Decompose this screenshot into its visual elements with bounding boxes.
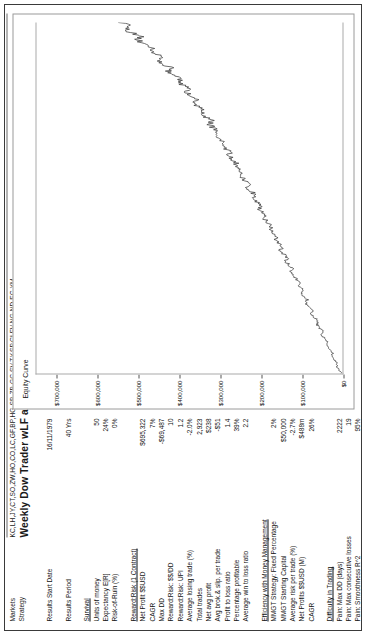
metric-label: MMGT Starting Capital (278, 555, 287, 621)
spacer (53, 416, 62, 621)
metric-label: CAGR (147, 602, 156, 621)
metric-label: Net Profit $$USD (137, 571, 146, 621)
metric-value: 1.2 (175, 416, 184, 427)
section-title-survival: Survival (81, 416, 90, 621)
metric-label: Pain: Smoothness R^2 (352, 555, 361, 621)
metric-value: 24% (100, 416, 109, 431)
section-label: Reward:Risk (1 Contract) (128, 548, 137, 621)
metric-label: Average risk per trade (%) (287, 545, 296, 621)
y-tick-label: $400,000 (175, 380, 182, 405)
section-title-reward-risk: Reward:Risk (1 Contract) (128, 416, 137, 621)
metric-row: Total trades 2,923 (194, 416, 203, 621)
metric-label: MMGT Strategy: Fixed Percentage (268, 521, 277, 621)
metric-value: $50,000 (278, 416, 287, 442)
y-tick-label: $0 (340, 380, 347, 387)
y-axis-ticks: $700,000$600,000$500,000$400,000$300,000… (35, 374, 343, 408)
report-page: Markets KC,LH,JY,CT,SO,ZW,HO,CO,LC,GF,BP… (0, 0, 366, 635)
metric-value: 1.4 (222, 416, 231, 427)
metric-row: Pain: Smoothness R^2 95% (352, 416, 361, 621)
metric-label: Reward:Risk: UPI (175, 570, 184, 621)
metric-row: Percentage profitable 39% (231, 416, 240, 621)
metric-row: MMGT Starting Capital $50,000 (278, 416, 287, 621)
metric-row: Reward:Risk: UPI 1.2 (175, 416, 184, 621)
metric-row: Profit to loss ratio 1.4 (222, 416, 231, 621)
y-tick-label: $600,000 (93, 380, 100, 405)
landscape-sheet: Markets KC,LH,JY,CT,SO,ZW,HO,CO,LC,GF,BP… (4, 4, 362, 631)
markets-label: Markets (8, 537, 16, 621)
metric-row: Risk-of-Ruin (%) 0% (109, 416, 118, 621)
results-period-label: Results Period (63, 579, 72, 621)
metric-results-start-date: Results Start Date 16/11/1979 (44, 416, 53, 621)
metric-value: 50 (91, 416, 100, 425)
metric-row: Average risk per trade (%) -2.7% (287, 416, 296, 621)
strategy-label: Strategy (17, 537, 25, 621)
y-tick-label: $500,000 (134, 380, 141, 405)
y-tick (179, 374, 180, 378)
metric-row: Average losing trade (%) -2.0% (184, 416, 193, 621)
metric-row: Expectancy E[R] 24% (100, 416, 109, 621)
spacer (119, 416, 128, 621)
metric-row: Net Profits $$USD (M) $488m (296, 416, 305, 621)
metric-value: 2222 (334, 416, 343, 432)
metric-value: 10 (165, 416, 174, 425)
metric-label: Total trades (194, 587, 203, 621)
metric-value: 0% (109, 416, 118, 427)
y-tick (138, 374, 139, 378)
metric-label: Pain: Max DD (days) (334, 561, 343, 621)
metric-row: Units of money 50 (91, 416, 100, 621)
y-tick (56, 374, 57, 378)
metric-label: Net Profits $$USD (M) (296, 556, 305, 621)
results-start-date-value: 16/11/1979 (44, 416, 53, 450)
y-tick (302, 374, 303, 378)
metric-label: Average win to loss ratio (240, 550, 249, 621)
y-tick (220, 374, 221, 378)
metric-value: $238 (203, 416, 212, 432)
metric-row: Reward:Risk: $$/DD 10 (165, 416, 174, 621)
spacer (250, 416, 259, 621)
results-start-date-label: Results Start Date (44, 568, 53, 621)
plot-area (35, 22, 343, 374)
metric-label: Average losing trade (%) (184, 550, 193, 621)
metric-value: 7% (147, 416, 156, 427)
metric-value: 39% (231, 416, 240, 431)
equity-curve-panel: Equity Curve $700,000$600,000$500,000$40… (12, 13, 354, 409)
metric-value: 2.2 (240, 416, 249, 427)
metric-row: Average win to loss ratio 2.2 (240, 416, 249, 621)
metric-results-period: Results Period 40 Yrs (63, 416, 72, 621)
metric-label: Max DD (156, 598, 165, 621)
metric-value: $488m (296, 416, 305, 438)
metric-row: CAGR 26% (306, 416, 315, 621)
metric-label: Profit to loss ratio (222, 571, 231, 621)
metric-value: 19 (343, 416, 352, 425)
metric-row: Pain: Max consecutive losses 19 (343, 416, 352, 621)
y-tick-label: $200,000 (257, 380, 264, 405)
metric-value: -2.7% (287, 416, 296, 435)
metric-value: -$69,487 (156, 416, 165, 444)
chart-title: Equity Curve (21, 359, 28, 398)
metric-value: 95% (352, 416, 361, 431)
metric-label: Net avg profit (203, 582, 212, 621)
metric-label: Percentage profitable (231, 559, 240, 621)
metric-row: Net avg profit $238 (203, 416, 212, 621)
metric-value: -$51 (212, 416, 221, 431)
y-tick-label: $300,000 (216, 380, 223, 405)
section-label: Difficulty in Trading (324, 566, 333, 621)
spacer (315, 416, 324, 621)
metric-value: $695,322 (137, 416, 146, 445)
header-divider (6, 13, 7, 537)
metric-row: Pain: Max DD (days) 2222 (334, 416, 343, 621)
metric-row: Avg brok.& slip. per trade -$51 (212, 416, 221, 621)
metric-row: Net Profit $$USD $695,322 (137, 416, 146, 621)
y-tick (343, 374, 344, 378)
spacer (72, 416, 81, 621)
metric-label: Expectancy E[R] (100, 573, 109, 621)
y-tick (97, 374, 98, 378)
y-tick-label: $100,000 (298, 380, 305, 405)
y-tick (261, 374, 262, 378)
metric-row: MMGT Strategy: Fixed Percentage 2% (268, 416, 277, 621)
metric-label: Risk-of-Ruin (%) (109, 573, 118, 621)
metrics-panel: Results Start Date 16/11/1979 Results Pe… (44, 416, 362, 621)
results-period-value: 40 Yrs (63, 416, 72, 437)
metric-label: Pain: Max consecutive losses (343, 536, 352, 621)
section-label: Efficiency with Money Management (259, 519, 268, 621)
